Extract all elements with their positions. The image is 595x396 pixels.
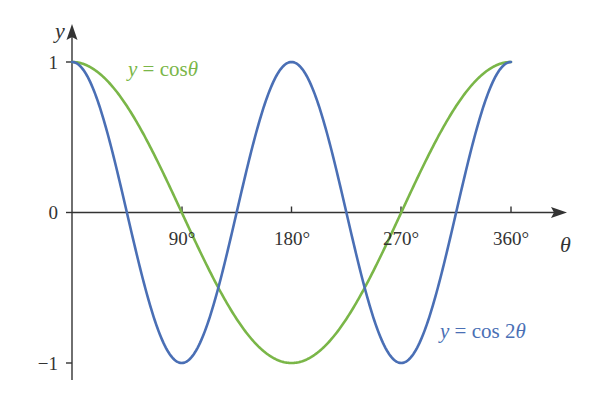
x-axis-label: θ — [560, 232, 571, 257]
cos2-annotation-eq: = cos 2 — [449, 319, 515, 343]
cos-theta-annotation: y = cosθ — [126, 57, 198, 81]
y-tick-label-0: 0 — [49, 202, 59, 223]
y-tick-label-minus1: −1 — [38, 353, 58, 374]
cos2-annotation-y: y — [438, 319, 450, 343]
trig-chart: y θ 1 0 −1 90° 180° 270° 360° y = cosθ y… — [0, 0, 595, 396]
x-tick-label-90: 90° — [169, 228, 196, 249]
x-tick-label-270: 270° — [383, 228, 419, 249]
x-tick-label-360: 360° — [493, 228, 529, 249]
y-tick-label-1: 1 — [49, 52, 59, 73]
y-axis-label: y — [53, 18, 65, 43]
x-tick-label-180: 180° — [274, 228, 310, 249]
cos-annotation-y: y — [126, 57, 138, 81]
cos-2theta-annotation: y = cos 2θ — [438, 319, 526, 343]
cos2-annotation-theta: θ — [515, 319, 525, 343]
cos-annotation-eq: = cos — [137, 57, 187, 81]
cos-annotation-theta: θ — [188, 57, 198, 81]
